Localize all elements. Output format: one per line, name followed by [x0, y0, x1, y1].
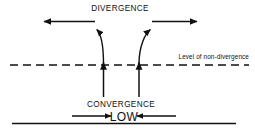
convergence-label: CONVERGENCE [87, 100, 155, 109]
low-label: LOW [110, 110, 139, 124]
outflow-curve-right [139, 30, 150, 65]
diagram-canvas: DIVERGENCE Level of non-divergence CONVE… [0, 0, 255, 132]
divergence-label: DIVERGENCE [91, 4, 149, 13]
divergence-convergence-diagram: DIVERGENCE Level of non-divergence CONVE… [0, 0, 255, 132]
level-of-non-divergence-label: Level of non-divergence [178, 53, 249, 61]
outflow-curve-left [97, 30, 104, 65]
